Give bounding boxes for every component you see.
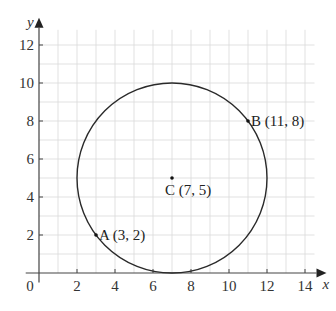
x-tick-label: 4 [111, 278, 119, 294]
labeled-points: A (3, 2)B (11, 8)C (7, 5) [94, 113, 304, 244]
tick-labels: xy2468101214246810120 [19, 14, 330, 294]
y-tick-label: 6 [27, 151, 35, 167]
point-a-label: A (3, 2) [99, 227, 145, 244]
coordinate-plot: xy2468101214246810120 A (3, 2)B (11, 8)C… [0, 0, 336, 311]
y-tick-label: 4 [27, 189, 35, 205]
point-c-label: C (7, 5) [165, 182, 211, 199]
x-tick-label: 14 [298, 278, 314, 294]
point-c-marker [170, 176, 174, 180]
x-tick-label: 2 [73, 278, 81, 294]
y-tick-label: 12 [19, 37, 34, 53]
x-tick-label: 8 [187, 278, 195, 294]
y-tick-label: 2 [27, 227, 35, 243]
x-tick-label: 10 [222, 278, 237, 294]
axes [26, 18, 327, 283]
y-axis-arrow-icon [35, 18, 44, 28]
x-tick-label: 12 [260, 278, 275, 294]
y-axis-label: y [25, 14, 34, 30]
origin-label: 0 [26, 278, 34, 294]
point-b-label: B (11, 8) [251, 113, 304, 130]
y-tick-label: 8 [27, 113, 35, 129]
y-tick-label: 10 [19, 75, 34, 91]
x-tick-label: 6 [149, 278, 157, 294]
point-b-marker [246, 119, 250, 123]
x-axis-label: x [322, 276, 330, 292]
point-a-marker [94, 233, 98, 237]
